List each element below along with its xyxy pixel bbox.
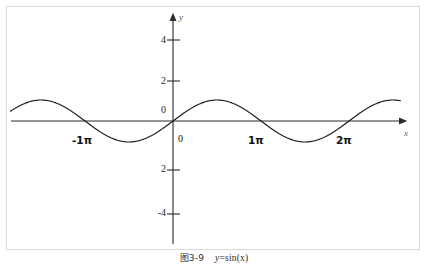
- y-tick-label-minus-2: 2: [140, 163, 166, 174]
- figure-expression: y=sin(x): [215, 253, 248, 263]
- plot-canvas: [0, 0, 428, 271]
- y-tick-label-4: 4: [140, 34, 166, 45]
- x-tick-label-minus-1pi: -1π: [72, 134, 92, 146]
- y-tick-label-minus-4: -4: [140, 207, 166, 218]
- y-tick-label-2: 2: [140, 75, 166, 86]
- y-axis-label: y: [179, 12, 183, 22]
- figure-number: 图3-9: [180, 253, 205, 263]
- x-axis-label: x: [404, 128, 408, 138]
- x-tick-label-0: 0: [178, 133, 183, 144]
- figure-caption: 图3-9y=sin(x): [0, 251, 428, 264]
- figure-root: y x 4 2 0 2 -4 -1π 0 1π 2π 图3-9y=sin(x): [0, 0, 428, 271]
- x-tick-label-1pi: 1π: [248, 134, 264, 146]
- y-tick-label-0: 0: [140, 104, 166, 115]
- x-tick-label-2pi: 2π: [336, 134, 352, 146]
